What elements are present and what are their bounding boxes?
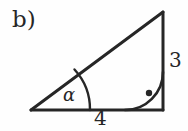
geometry-figure: b) 3 4 α [0,0,188,131]
horizontal-side-label: 4 [94,108,107,128]
part-label: b) [12,8,36,31]
right-angle-arc [125,72,163,110]
vertical-side-label: 3 [169,50,182,70]
angle-alpha-label: α [63,86,75,104]
right-angle-dot-icon [146,90,152,96]
triangle-hypotenuse-line [31,12,163,110]
